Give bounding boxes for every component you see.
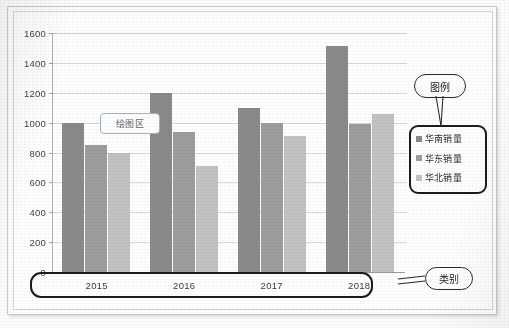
legend-swatch-icon [416,136,422,142]
bar-group-2017 [228,33,316,272]
bar-华东销量-2015[interactable] [85,145,107,272]
legend-item-label: 华南销量 [425,132,462,145]
y-axis-tick-label: 1400 [2,57,46,68]
legend-item-华南销量[interactable]: 华南销量 [416,132,479,145]
legend-item-label: 华东销量 [425,152,462,165]
y-axis-tick-label: 200 [2,237,46,248]
x-axis-labels: 2015201620172018 [53,274,403,296]
plot-area-callout: 绘图区 [100,113,160,134]
y-axis-tick-label: 1200 [2,87,46,98]
bar-华东销量-2016[interactable] [173,132,195,272]
bar-group-2015 [52,33,140,272]
y-axis-tick-label: 1000 [2,117,46,128]
bar-华北销量-2016[interactable] [196,166,218,272]
legend-swatch-icon [416,175,422,181]
bar-华南销量-2017[interactable] [238,108,260,272]
x-axis-tick-label-2018: 2018 [316,274,404,296]
bar-group-2018 [316,33,404,272]
y-axis-tick-label: 600 [2,177,46,188]
bar-华南销量-2018[interactable] [326,46,348,272]
category-callout: 类别 [425,267,473,290]
bar-group-2016 [140,33,228,272]
y-axis-tick-label: 1600 [2,28,46,39]
bar-华北销量-2017[interactable] [284,136,306,272]
bar-华南销量-2015[interactable] [62,123,84,272]
bar-华东销量-2017[interactable] [261,123,283,272]
bar-华北销量-2015[interactable] [108,153,130,273]
x-axis-tick-label-2015: 2015 [53,274,141,296]
y-axis-tick-label: 800 [2,147,46,158]
chart-legend[interactable]: 华南销量华东销量华北销量 [412,128,482,188]
chart-page: 02004006008001000120014001600 2015201620… [0,0,509,328]
bar-groups [52,33,404,272]
y-axis-tick-mark [49,272,53,273]
y-axis-tick-label: 0 [2,267,46,278]
legend-callout: 图例 [414,74,466,98]
x-axis-tick-label-2016: 2016 [141,274,229,296]
bar-华北销量-2018[interactable] [372,114,394,272]
legend-item-华东销量[interactable]: 华东销量 [416,152,479,165]
legend-item-label: 华北销量 [425,171,462,184]
legend-item-华北销量[interactable]: 华北销量 [416,171,479,184]
bar-华东销量-2018[interactable] [349,124,371,272]
legend-swatch-icon [416,155,422,161]
y-axis-tick-label: 400 [2,207,46,218]
x-axis-tick-label-2017: 2017 [228,274,316,296]
